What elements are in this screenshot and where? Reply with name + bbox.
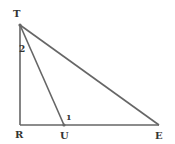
vertex-label-e: E bbox=[155, 130, 163, 141]
vertex-t-dot bbox=[18, 23, 21, 26]
segment-te bbox=[20, 25, 159, 125]
vertex-label-r: R bbox=[15, 129, 24, 140]
vertex-u-dot bbox=[62, 123, 65, 126]
vertex-label-t: T bbox=[13, 8, 21, 19]
angle-label-2: 2 bbox=[19, 44, 25, 54]
triangle-diagram: T R U E 2 1 bbox=[0, 0, 175, 144]
vertex-label-u: U bbox=[60, 130, 69, 141]
angle-label-1: 1 bbox=[66, 112, 72, 122]
diagram-svg: T R U E 2 1 bbox=[0, 0, 175, 144]
